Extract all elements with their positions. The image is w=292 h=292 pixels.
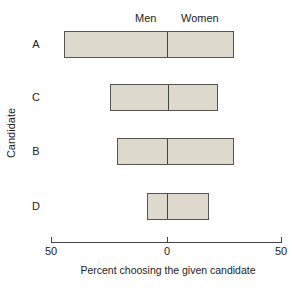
x-tick-label-right: 50 — [266, 245, 292, 257]
category-label-c: C — [30, 91, 42, 103]
legend-women: Women — [181, 12, 219, 24]
x-tick-mid — [167, 237, 168, 243]
bar-c — [110, 84, 219, 111]
bar-d — [147, 193, 209, 220]
legend-men: Men — [135, 12, 156, 24]
category-label-a: A — [30, 38, 42, 50]
zero-divider — [168, 85, 169, 110]
zero-divider — [167, 139, 168, 164]
x-tick-label-mid: 0 — [152, 245, 182, 257]
x-tick-right — [281, 237, 282, 243]
category-label-b: B — [30, 145, 42, 157]
bar-a — [64, 31, 235, 58]
y-axis-label: Candidate — [5, 98, 17, 168]
zero-divider — [167, 32, 168, 57]
bar-b — [117, 138, 235, 165]
x-tick-left — [51, 237, 52, 243]
category-label-d: D — [30, 200, 42, 212]
zero-divider — [167, 194, 168, 219]
x-tick-label-left: 50 — [36, 245, 66, 257]
x-axis-label: Percent choosing the given candidate — [0, 264, 292, 276]
